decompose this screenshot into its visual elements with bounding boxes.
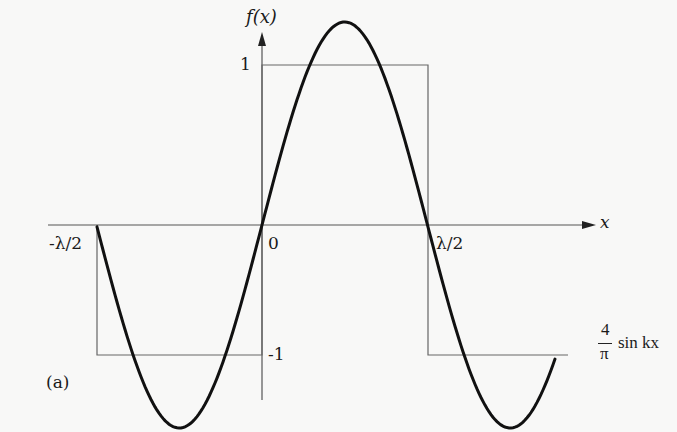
fraction-numerator: 4 [601,320,610,340]
y-tick-1: 1 [240,54,251,74]
x-tick-half-lambda: λ/2 [436,233,463,253]
y-tick-minus-1: -1 [268,344,285,364]
y-axis-arrow-icon [258,32,266,46]
panel-label: (a) [46,372,69,392]
x-axis-label: x [600,212,610,232]
annotation-text: sin kx [618,333,659,353]
plot-area [0,0,677,432]
x-tick-neg-half-lambda: -λ/2 [49,233,82,253]
fraction-denominator: π [600,344,609,364]
figure: f(x) x -λ/2 0 λ/2 1 -1 (a) 4 π sin kx [0,0,677,432]
x-tick-zero: 0 [268,233,279,253]
square-wave [97,65,568,355]
x-axis-arrow-icon [582,221,596,229]
y-axis-label: f(x) [246,6,277,27]
